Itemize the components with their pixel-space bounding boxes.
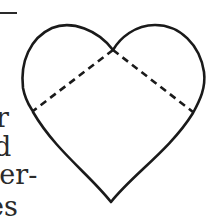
dashed-line-left [33, 50, 113, 111]
dashed-line-right [113, 50, 193, 112]
heart-diagram [0, 0, 216, 223]
